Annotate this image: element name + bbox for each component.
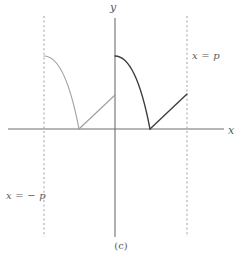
left-line-segment: [79, 95, 115, 129]
function-plot: [0, 0, 242, 260]
y-axis-label: y: [110, 1, 116, 14]
left-arc-segment: [44, 56, 79, 129]
figure-caption: (c): [0, 240, 242, 251]
x-axis-label: x: [228, 124, 234, 137]
figure-container: y x x = p x = − p (c): [0, 0, 242, 260]
left-asymptote-label: x = − p: [6, 190, 46, 201]
right-asymptote-label: x = p: [192, 50, 220, 61]
right-line-segment: [150, 94, 187, 129]
right-arc-segment: [115, 56, 150, 129]
